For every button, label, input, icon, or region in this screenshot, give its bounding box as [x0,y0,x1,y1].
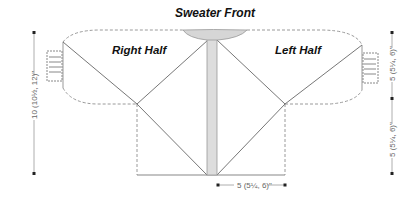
left-height-dimension: 10 (10½, 12)" [30,31,39,175]
bottom-width-label: 5 (5¼, 6)" [237,181,272,190]
diagram-title: Sweater Front [175,6,256,20]
right-lower-dim-label: 5 (5¼, 6)" [388,122,397,157]
left-height-label: 10 (10½, 12)" [30,71,39,119]
right-upper-dim-label: 5 (5¼, 6)" [388,46,397,81]
right-cuff [47,51,62,81]
button-band [207,38,217,175]
left-cuff [363,53,378,83]
sweater-front-schematic: Sweater Front [0,0,415,197]
right-height-dimensions: 5 (5¼, 6)" 5 (5¼, 6)" [388,31,397,175]
left-half-label: Left Half [275,44,322,56]
collar [183,30,247,41]
bottom-width-dimension: 5 (5¼, 6)" [217,181,287,190]
right-half-label: Right Half [112,44,167,56]
